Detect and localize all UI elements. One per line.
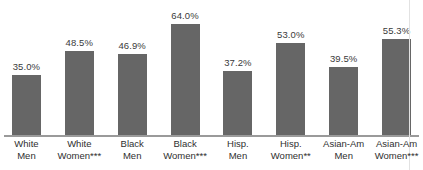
x-tick-label-line1: Hisp. bbox=[265, 138, 316, 150]
bar[interactable] bbox=[118, 54, 147, 136]
x-axis-labels: White Men White Women*** Black Men Black… bbox=[0, 138, 423, 170]
bar-slot: 37.2% bbox=[212, 0, 263, 136]
bar[interactable] bbox=[65, 51, 94, 136]
x-tick-label-line2: Women*** bbox=[371, 150, 422, 162]
bar[interactable] bbox=[276, 43, 305, 136]
x-tick-label: Asian-Am Men bbox=[318, 138, 369, 170]
bar-slot: 55.3% bbox=[371, 0, 422, 136]
x-tick-label-line1: Hisp. bbox=[212, 138, 263, 150]
x-tick-label-line2: Women*** bbox=[54, 150, 105, 162]
x-tick-label-line2: Women*** bbox=[160, 150, 211, 162]
bar[interactable] bbox=[12, 75, 41, 136]
bar-series: 35.0% 48.5% 46.9% 64.0% 37.2% 53.0% bbox=[0, 0, 423, 136]
x-tick-label: Hisp. Women** bbox=[265, 138, 316, 170]
x-tick-label: Asian-Am Women*** bbox=[371, 138, 422, 170]
x-tick-label-line1: Asian-Am bbox=[371, 138, 422, 150]
plot-area: 35.0% 48.5% 46.9% 64.0% 37.2% 53.0% bbox=[0, 0, 423, 137]
bar-value-label: 53.0% bbox=[265, 29, 316, 40]
x-tick-label: Hisp. Men bbox=[212, 138, 263, 170]
x-tick-label-line2: Women** bbox=[265, 150, 316, 162]
x-tick-label-line1: Black bbox=[107, 138, 158, 150]
x-axis-line bbox=[4, 135, 419, 137]
bar-value-label: 35.0% bbox=[1, 61, 52, 72]
bar[interactable] bbox=[171, 24, 200, 136]
bar-value-label: 46.9% bbox=[107, 40, 158, 51]
bar-slot: 64.0% bbox=[160, 0, 211, 136]
x-tick-label-line1: Black bbox=[160, 138, 211, 150]
x-tick-label-line2: Men bbox=[1, 150, 52, 162]
bar[interactable] bbox=[223, 71, 252, 136]
x-tick-label-line2: Men bbox=[107, 150, 158, 162]
bar-slot: 48.5% bbox=[54, 0, 105, 136]
bar[interactable] bbox=[382, 39, 411, 136]
bar-slot: 35.0% bbox=[1, 0, 52, 136]
x-tick-label: White Men bbox=[1, 138, 52, 170]
bar-value-label: 64.0% bbox=[160, 10, 211, 21]
x-tick-label-line2: Men bbox=[318, 150, 369, 162]
bar-slot: 46.9% bbox=[107, 0, 158, 136]
bar-value-label: 37.2% bbox=[212, 57, 263, 68]
x-tick-label-line2: Men bbox=[212, 150, 263, 162]
bar-chart: 35.0% 48.5% 46.9% 64.0% 37.2% 53.0% bbox=[0, 0, 423, 170]
x-tick-label-line1: White bbox=[54, 138, 105, 150]
bar[interactable] bbox=[329, 67, 358, 136]
bar-slot: 39.5% bbox=[318, 0, 369, 136]
bar-slot: 53.0% bbox=[265, 0, 316, 136]
x-tick-label: White Women*** bbox=[54, 138, 105, 170]
bar-value-label: 39.5% bbox=[318, 53, 369, 64]
x-tick-label-line1: Asian-Am bbox=[318, 138, 369, 150]
x-tick-label-line1: White bbox=[1, 138, 52, 150]
bar-value-label: 48.5% bbox=[54, 37, 105, 48]
bar-value-label: 55.3% bbox=[371, 25, 422, 36]
x-tick-label: Black Women*** bbox=[160, 138, 211, 170]
x-tick-label: Black Men bbox=[107, 138, 158, 170]
